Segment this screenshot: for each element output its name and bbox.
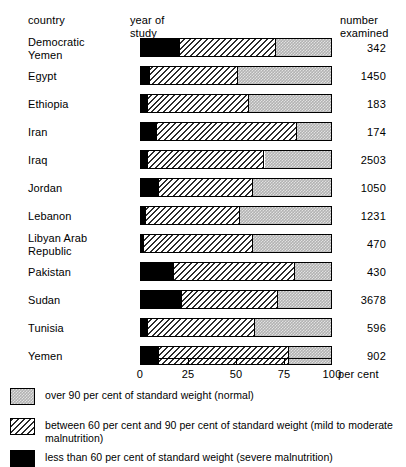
stacked-bar <box>140 262 332 281</box>
x-axis-tick-label: 75 <box>278 368 291 380</box>
bar-segment-mild <box>173 263 295 280</box>
row-number-examined: 2503 <box>336 154 386 166</box>
legend-label: over 90 per cent of standard weight (nor… <box>45 389 401 402</box>
bar-segment-mild <box>145 207 240 224</box>
legend-label: less than 60 per cent of standard weight… <box>45 451 401 464</box>
bar-segment-mild <box>181 291 278 308</box>
bar-segment-normal <box>249 95 331 112</box>
stacked-bar <box>140 290 332 309</box>
row-number-examined: 596 <box>336 322 386 334</box>
bar-segment-severe <box>141 123 156 140</box>
row-number-examined: 430 <box>336 266 386 278</box>
row-country-label: Jordan <box>28 182 124 195</box>
legend-label: between 60 per cent and 90 per cent of s… <box>45 419 401 444</box>
chart-row: Lebanon19691231 <box>0 202 406 230</box>
x-axis-tick <box>284 359 285 365</box>
bar-segment-normal <box>276 39 331 56</box>
row-number-examined: 1050 <box>336 182 386 194</box>
bar-segment-severe <box>141 179 158 196</box>
chart-row: Iran1965–66174 <box>0 118 406 146</box>
stacked-bar <box>140 122 332 141</box>
legend-swatch-normal <box>10 388 35 405</box>
stacked-bar <box>140 234 332 253</box>
bar-segment-mild <box>156 123 297 140</box>
bar-segment-mild <box>158 179 253 196</box>
bar-segment-normal <box>253 235 331 252</box>
chart-row: Libyan Arab Republic1971470 <box>0 230 406 258</box>
row-country-label: Yemen <box>28 350 124 363</box>
x-axis-tick <box>331 359 332 365</box>
legend-swatch-severe <box>10 450 35 467</box>
stacked-bar <box>140 206 332 225</box>
bar-segment-normal <box>240 207 331 224</box>
bar-segment-normal <box>265 151 332 168</box>
row-number-examined: 1231 <box>336 210 386 222</box>
bar-segment-severe <box>141 263 173 280</box>
x-axis-tick-label: 0 <box>137 368 143 380</box>
chart-row: Pakistan1965–66430 <box>0 258 406 286</box>
chart-row: Ethiopia1970183 <box>0 90 406 118</box>
x-axis-tick-label: 50 <box>230 368 243 380</box>
row-country-label: Tunisia <box>28 322 124 335</box>
x-axis-tick <box>236 359 237 365</box>
row-country-label: Sudan <box>28 294 124 307</box>
bar-segment-normal <box>238 67 331 84</box>
row-number-examined: 342 <box>336 42 386 54</box>
row-number-examined: 3678 <box>336 294 386 306</box>
row-country-label: Pakistan <box>28 266 124 279</box>
bar-segment-mild <box>147 95 250 112</box>
row-number-examined: 902 <box>336 350 386 362</box>
row-country-label: Iran <box>28 126 124 139</box>
stacked-bar <box>140 94 332 113</box>
row-country-label: Lebanon <box>28 210 124 223</box>
chart-row: Egypt1965–661450 <box>0 62 406 90</box>
bar-segment-mild <box>143 235 253 252</box>
stacked-bar <box>140 150 332 169</box>
bar-segment-normal <box>255 319 331 336</box>
chart-row: Iraq19652503 <box>0 146 406 174</box>
row-country-label: Democratic Yemen <box>28 36 124 61</box>
row-number-examined: 174 <box>336 126 386 138</box>
bar-segment-mild <box>147 151 265 168</box>
chart-row: Sudan1971–723678 <box>0 286 406 314</box>
stacked-bar <box>140 66 332 85</box>
x-axis <box>140 358 332 367</box>
bar-segment-mild <box>179 39 276 56</box>
bar-segment-mild <box>147 319 255 336</box>
bar-segment-mild <box>149 67 238 84</box>
chart-row: Tunisia1969–70596 <box>0 314 406 342</box>
chart-row: Democratic Yemen1971342 <box>0 34 406 62</box>
row-country-label: Libyan Arab Republic <box>28 232 124 257</box>
bar-segment-severe <box>141 39 179 56</box>
row-country-label: Iraq <box>28 154 124 167</box>
row-number-examined: 1450 <box>336 70 386 82</box>
bar-segment-severe <box>141 291 181 308</box>
x-axis-unit-label: per cent <box>338 368 379 380</box>
x-axis-tick <box>140 359 141 365</box>
stacked-bar <box>140 178 332 197</box>
row-number-examined: 470 <box>336 238 386 250</box>
row-country-label: Egypt <box>28 70 124 83</box>
bar-segment-normal <box>295 263 331 280</box>
bar-segment-severe <box>141 67 149 84</box>
stacked-bar <box>140 318 332 337</box>
bar-segment-normal <box>297 123 331 140</box>
bar-segment-normal <box>253 179 331 196</box>
x-axis-tick-label: 25 <box>182 368 195 380</box>
legend-swatch-mild <box>10 418 35 435</box>
bar-segment-normal <box>278 291 331 308</box>
stacked-bar <box>140 38 332 57</box>
column-header-country: country <box>28 14 65 27</box>
row-country-label: Ethiopia <box>28 98 124 111</box>
x-axis-tick <box>188 359 189 365</box>
chart-row: Jordan1963–651050 <box>0 174 406 202</box>
row-number-examined: 183 <box>336 98 386 110</box>
